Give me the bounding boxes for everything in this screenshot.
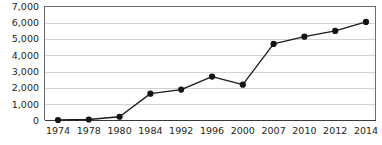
x-axis-tick-label: 1992 — [169, 125, 193, 136]
x-axis-tick-label: 2007 — [262, 125, 286, 136]
y-axis-tick-label: 2,000 — [12, 82, 39, 93]
x-axis-tick-label: 1984 — [138, 125, 162, 136]
x-axis-tick-labels: 1974197819801984199219962000200720102012… — [46, 125, 378, 136]
x-axis-tick-label: 2014 — [354, 125, 378, 136]
x-axis-tick-label: 1974 — [46, 125, 70, 136]
data-point-marker — [240, 82, 246, 88]
y-axis-tick-label: 5,000 — [12, 33, 39, 44]
data-point-marker — [363, 19, 369, 25]
data-point-marker — [178, 86, 184, 92]
data-point-marker — [301, 34, 307, 40]
data-point-marker — [332, 28, 338, 34]
x-axis-tick-label: 1996 — [200, 125, 224, 136]
y-axis-tick-label: 7,000 — [12, 1, 39, 12]
data-point-marker — [55, 117, 61, 123]
chart-screenshot: 01,0002,0003,0004,0005,0006,0007,000 197… — [0, 0, 382, 145]
x-axis-tick-label: 2000 — [231, 125, 255, 136]
y-axis-tick-label: 1,000 — [12, 99, 39, 110]
x-axis-tick-label: 2010 — [292, 125, 316, 136]
y-axis-tick-label: 6,000 — [12, 17, 39, 28]
y-axis-tick-label: 3,000 — [12, 66, 39, 77]
x-axis-tick-label: 2012 — [323, 125, 347, 136]
data-point-marker — [271, 41, 277, 47]
data-point-marker — [209, 73, 215, 79]
x-axis-tick-label: 1980 — [108, 125, 132, 136]
line-chart: 01,0002,0003,0004,0005,0006,0007,000 197… — [0, 0, 382, 145]
data-point-marker — [147, 91, 153, 97]
data-point-marker — [86, 116, 92, 122]
y-axis-tick-label: 4,000 — [12, 50, 39, 61]
y-axis-tick-label: 0 — [33, 115, 39, 126]
x-axis-tick-label: 1978 — [77, 125, 101, 136]
data-point-marker — [117, 114, 123, 120]
